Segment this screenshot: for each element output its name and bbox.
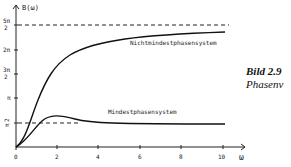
figure-number: Bild 2.9 bbox=[245, 65, 282, 77]
y-tick-5pi2-num: 5π bbox=[3, 17, 11, 24]
y-tick-3pi2-num: 3π bbox=[3, 66, 11, 73]
svg-text:2: 2 bbox=[3, 118, 10, 122]
phase-chart: 0 2 4 6 8 10 ω 5π 2 2π 3π 2 π π 2 B(ω) N… bbox=[0, 0, 291, 167]
y-axis-label: B(ω) bbox=[22, 4, 39, 12]
series-label-mindestphasensystem: Mindestphasensystem bbox=[108, 108, 177, 116]
y-tick-pi2: π 2 bbox=[3, 118, 10, 127]
y-tick-5pi2-den: 2 bbox=[4, 24, 8, 31]
y-tick-pi: π bbox=[7, 94, 11, 101]
series-label-nichtmindestphasensystem: Nichtmindestphasensystem bbox=[130, 39, 217, 47]
x-axis-label: ω bbox=[239, 153, 244, 162]
y-tick-3pi2-den: 2 bbox=[4, 73, 8, 80]
x-tick-0: 0 bbox=[14, 153, 18, 160]
figure-caption: Phasenv bbox=[245, 78, 283, 90]
x-tick-10: 10 bbox=[218, 153, 226, 160]
svg-text:π: π bbox=[3, 123, 10, 127]
x-tick-6: 6 bbox=[138, 153, 142, 160]
x-tick-4: 4 bbox=[96, 153, 100, 160]
series-nichtmindestphasensystem bbox=[16, 32, 225, 147]
series-mindestphasensystem bbox=[16, 116, 225, 147]
x-tick-2: 2 bbox=[55, 153, 59, 160]
y-tick-2pi: 2π bbox=[3, 46, 11, 53]
x-tick-8: 8 bbox=[179, 153, 183, 160]
